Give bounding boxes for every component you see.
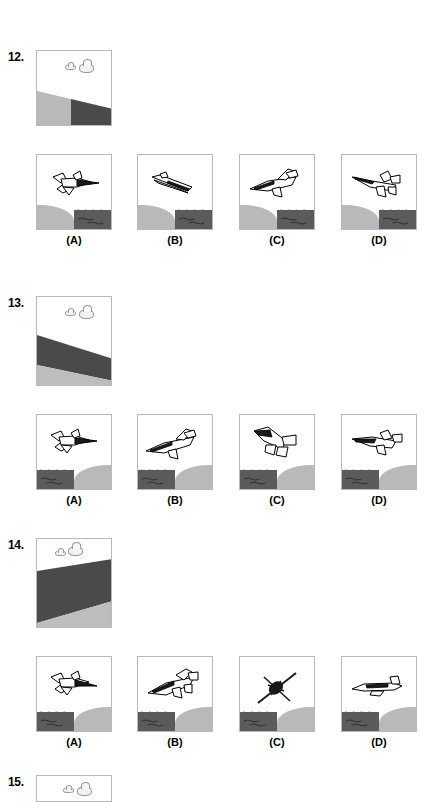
aircraft-graphic [148, 171, 204, 199]
water-region [240, 470, 277, 489]
option-label: (B) [137, 234, 213, 246]
option-label: (A) [36, 736, 112, 748]
water-region [379, 210, 416, 229]
option-label: (A) [36, 494, 112, 506]
water-region [138, 470, 175, 489]
option-label: (C) [239, 736, 315, 748]
terrain-graphic [37, 51, 112, 126]
water-region [138, 712, 175, 731]
option-a[interactable]: (A) [36, 414, 112, 490]
land-region [277, 707, 314, 731]
option-b[interactable]: (B) [137, 656, 213, 732]
option-b[interactable]: (B) [137, 414, 213, 490]
option-panel[interactable] [239, 154, 315, 230]
terrain [138, 707, 212, 731]
aircraft-graphic [47, 169, 105, 203]
test-page: 12. [0, 0, 438, 802]
question-number: 15. [8, 775, 24, 789]
land-region [277, 465, 314, 489]
aircraft-graphic [45, 669, 103, 703]
aircraft-graphic [350, 675, 408, 699]
option-c[interactable]: (C) [239, 414, 315, 490]
option-label: (D) [341, 494, 417, 506]
sky [37, 776, 111, 801]
water-region [74, 210, 111, 229]
option-label: (D) [341, 736, 417, 748]
option-d[interactable]: (D) [341, 414, 417, 490]
terrain-graphic [37, 539, 112, 628]
aircraft-graphic [254, 671, 302, 707]
option-label: (C) [239, 494, 315, 506]
land-region [138, 205, 175, 229]
terrain [37, 205, 111, 229]
land-region [74, 465, 111, 489]
water-region [175, 210, 212, 229]
option-panel[interactable] [341, 656, 417, 732]
option-panel[interactable] [341, 154, 417, 230]
option-panel[interactable] [239, 656, 315, 732]
stimulus-panel-14 [36, 538, 112, 628]
terrain-graphic [37, 297, 112, 386]
option-panel[interactable] [36, 656, 112, 732]
land-region [37, 205, 74, 229]
terrain [342, 707, 416, 731]
option-label: (B) [137, 736, 213, 748]
option-panel[interactable] [137, 656, 213, 732]
aircraft-graphic [45, 427, 103, 461]
stimulus-panel-13 [36, 296, 112, 386]
option-b[interactable]: (B) [137, 154, 213, 230]
aircraft-graphic [252, 425, 304, 463]
cloud-icon [77, 786, 92, 796]
stimulus-panel-12 [36, 50, 112, 126]
option-a[interactable]: (A) [36, 656, 112, 732]
terrain [240, 465, 314, 489]
aircraft-graphic [350, 429, 408, 461]
stimulus-panel-15 [36, 775, 112, 802]
water-region [240, 712, 277, 731]
option-panel[interactable] [341, 414, 417, 490]
option-panel[interactable] [137, 154, 213, 230]
terrain [37, 465, 111, 489]
option-c[interactable]: (C) [239, 656, 315, 732]
terrain [138, 465, 212, 489]
aircraft-graphic [146, 669, 204, 703]
aircraft-graphic [144, 429, 204, 461]
option-panel[interactable] [137, 414, 213, 490]
cloud-icon [63, 787, 74, 793]
terrain [240, 707, 314, 731]
option-panel[interactable] [36, 154, 112, 230]
option-c[interactable]: (C) [239, 154, 315, 230]
water-region [277, 210, 314, 229]
water-region [342, 470, 379, 489]
land-region [175, 707, 212, 731]
terrain [37, 707, 111, 731]
terrain [138, 205, 212, 229]
option-d[interactable]: (D) [341, 656, 417, 732]
option-panel[interactable] [239, 414, 315, 490]
land-region [342, 205, 379, 229]
question-number: 12. [8, 50, 24, 64]
water-region [342, 712, 379, 731]
land-region [379, 465, 416, 489]
question-number: 13. [8, 296, 24, 310]
option-label: (A) [36, 234, 112, 246]
land-region [175, 465, 212, 489]
terrain [240, 205, 314, 229]
option-label: (D) [341, 234, 417, 246]
water-region [37, 712, 74, 731]
option-d[interactable]: (D) [341, 154, 417, 230]
land-region [74, 707, 111, 731]
option-a[interactable]: (A) [36, 154, 112, 230]
terrain [342, 465, 416, 489]
land-region [240, 205, 277, 229]
option-panel[interactable] [36, 414, 112, 490]
water-region [37, 470, 74, 489]
aircraft-graphic [350, 169, 408, 203]
aircraft-graphic [248, 169, 306, 201]
terrain [342, 205, 416, 229]
land-region [379, 707, 416, 731]
option-label: (C) [239, 234, 315, 246]
option-label: (B) [137, 494, 213, 506]
question-number: 14. [8, 538, 24, 552]
